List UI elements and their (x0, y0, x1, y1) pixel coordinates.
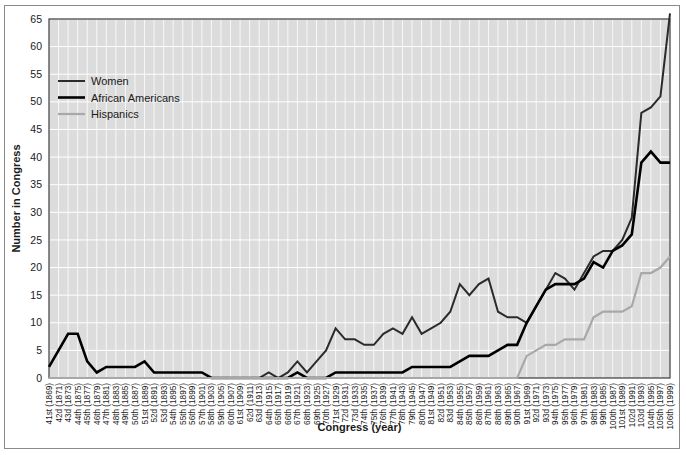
chart-figure: 0510152025303540455055606541st (1869)42d… (0, 0, 686, 455)
x-tick-label: 99th (1985) (599, 383, 608, 425)
y-tick-label: 40 (30, 151, 42, 163)
x-tick-label: 61st (1909) (236, 383, 245, 425)
x-tick-label: 75th (1937) (370, 383, 379, 425)
x-tick-label: 97th (1981) (580, 383, 589, 425)
line-chart: 0510152025303540455055606541st (1869)42d… (0, 0, 686, 455)
x-tick-label: 79th (1945) (408, 383, 417, 425)
x-tick-label: 42d (1871) (55, 383, 64, 423)
x-tick-label: 105th (1997) (656, 383, 665, 430)
y-tick-label: 60 (30, 40, 42, 52)
y-axis-title: Number in Congress (10, 144, 22, 252)
x-tick-label: 98th (1983) (590, 383, 599, 425)
x-tick-label: 59th (1905) (217, 383, 226, 425)
x-tick-label: 95th (1977) (561, 383, 570, 425)
x-tick-label: 45th (1877) (83, 383, 92, 425)
y-tick-label: 15 (30, 289, 42, 301)
x-tick-label: 88th (1963) (494, 383, 503, 425)
x-tick-label: 87th (1961) (484, 383, 493, 425)
y-tick-label: 65 (30, 13, 42, 25)
legend-label: Women (91, 75, 129, 87)
x-tick-label: 83d (1953) (446, 383, 455, 423)
y-tick-label: 20 (30, 261, 42, 273)
x-tick-label: 96th (1979) (570, 383, 579, 425)
x-tick-label: 101st (1989) (618, 383, 627, 429)
x-tick-label: 50th (1887) (131, 383, 140, 425)
x-tick-label: 47th (1881) (102, 383, 111, 425)
y-tick-label: 35 (30, 178, 42, 190)
x-tick-label: 82d (1951) (437, 383, 446, 423)
x-axis-title: Congress (year) (318, 421, 402, 433)
y-axis-tick-labels: 05101520253035404550556065 (30, 13, 42, 384)
x-tick-label: 48th (1883) (112, 383, 121, 425)
x-tick-label: 103d (1993) (637, 383, 646, 427)
x-tick-label: 86th (1959) (475, 383, 484, 425)
x-tick-label: 74th (1935) (360, 383, 369, 425)
x-tick-label: 55th (1897) (179, 383, 188, 425)
x-tick-label: 67th (1921) (293, 383, 302, 425)
x-tick-label: 85th (1957) (465, 383, 474, 425)
x-tick-label: 90th (1967) (513, 383, 522, 425)
y-tick-label: 30 (30, 206, 42, 218)
x-tick-label: 71st (1929) (332, 383, 341, 425)
plot-background (49, 19, 670, 378)
x-tick-label: 57th (1901) (198, 383, 207, 425)
x-tick-label: 77th (1941) (389, 383, 398, 425)
x-tick-label: 41st (1869) (45, 383, 54, 425)
x-tick-label: 106th (1999) (666, 383, 675, 430)
x-tick-label: 73d (1933) (351, 383, 360, 423)
x-tick-label: 68th (1923) (303, 383, 312, 425)
y-tick-label: 0 (36, 372, 42, 384)
x-tick-label: 92d (1971) (532, 383, 541, 423)
x-tick-label: 70th (1927) (322, 383, 331, 425)
x-tick-label: 80th (1947) (418, 383, 427, 425)
x-tick-label: 64th (1915) (265, 383, 274, 425)
y-tick-label: 55 (30, 68, 42, 80)
x-tick-label: 53d (1893) (160, 383, 169, 423)
x-tick-label: 46th (1879) (93, 383, 102, 425)
x-tick-label: 100th (1987) (609, 383, 618, 430)
x-tick-label: 72d (1931) (341, 383, 350, 423)
x-tick-label: 62d (1911) (246, 383, 255, 422)
x-tick-label: 69th (1925) (313, 383, 322, 425)
x-tick-label: 89th (1965) (504, 383, 513, 425)
y-tick-label: 25 (30, 234, 42, 246)
x-tick-label: 104th (1995) (647, 383, 656, 430)
x-tick-label: 58th (1903) (207, 383, 216, 425)
x-tick-label: 66th (1919) (284, 383, 293, 425)
x-tick-label: 102d (1991) (628, 383, 637, 427)
y-tick-label: 10 (30, 316, 42, 328)
legend-label: African Americans (91, 92, 180, 104)
x-tick-label: 81st (1949) (427, 383, 436, 425)
x-tick-label: 65th (1917) (274, 383, 283, 425)
legend-label: Hispanics (91, 108, 139, 120)
x-tick-label: 78th (1943) (398, 383, 407, 425)
x-tick-label: 84th (1955) (456, 383, 465, 425)
y-tick-label: 50 (30, 95, 42, 107)
x-tick-label: 63d (1913) (255, 383, 264, 423)
x-tick-label: 54th (1895) (169, 383, 178, 425)
x-tick-label: 56th (1899) (188, 383, 197, 425)
x-tick-label: 49th (1885) (121, 383, 130, 425)
x-tick-label: 91st (1969) (523, 383, 532, 425)
x-tick-label: 43d (1873) (64, 383, 73, 423)
x-tick-label: 52d (1891) (150, 383, 159, 423)
x-tick-label: 93d (1973) (542, 383, 551, 423)
x-tick-label: 51st (1889) (141, 383, 150, 425)
y-tick-label: 5 (36, 344, 42, 356)
x-tick-label: 60th (1907) (227, 383, 236, 425)
x-tick-label: 94th (1975) (551, 383, 560, 425)
x-tick-label: 76th (1939) (379, 383, 388, 425)
x-tick-label: 44th (1875) (74, 383, 83, 425)
y-tick-label: 45 (30, 123, 42, 135)
